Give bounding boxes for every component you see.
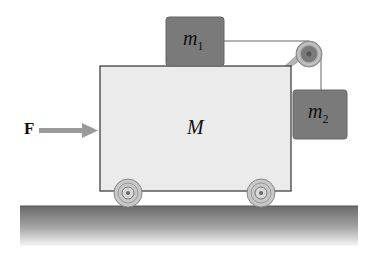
block1-label-subscript: 1 — [197, 39, 203, 53]
block2-label: m2 — [308, 100, 328, 127]
pulley — [296, 41, 322, 67]
force-arrow — [39, 123, 98, 138]
block1-label: m1 — [183, 27, 203, 54]
force-label: F — [24, 119, 34, 139]
block1-label-main: m — [183, 27, 197, 49]
block2-label-subscript: 2 — [322, 112, 328, 126]
cart-label: M — [187, 116, 204, 139]
block2-label-main: m — [308, 100, 322, 122]
wheel-right — [247, 179, 275, 207]
wheel-left — [114, 179, 142, 207]
ground — [20, 206, 358, 246]
